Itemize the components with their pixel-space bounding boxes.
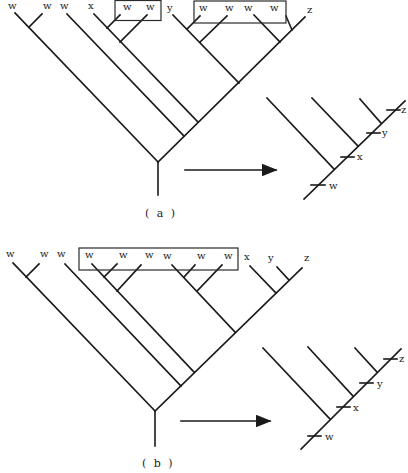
leaf-label: w — [119, 249, 128, 260]
tree-b — [13, 263, 302, 446]
tree-a-labels: w w w x w w y w w w w z — [8, 0, 312, 15]
leaf-label: w — [43, 0, 52, 11]
tick-label: z — [399, 353, 404, 364]
tick-label: y — [376, 378, 383, 389]
leaf-label: y — [267, 252, 274, 263]
leaf-label: z — [307, 4, 312, 15]
tick-label: z — [401, 104, 406, 115]
tick-label: x — [353, 402, 359, 413]
tick-label: w — [325, 431, 334, 442]
leaf-label: w — [145, 249, 154, 260]
leaf-label: w — [244, 2, 253, 13]
box-group-b1 — [79, 248, 238, 270]
leaf-label: w — [163, 250, 172, 261]
leaf-label: w — [40, 248, 49, 259]
tick-label: y — [381, 127, 388, 138]
leaf-label: x — [88, 0, 94, 11]
leaf-label: w — [60, 0, 69, 11]
tick-label: x — [357, 151, 363, 162]
panel-b: w w w w w w w w w x y z w x y z — [6, 248, 404, 470]
leaf-label: w — [199, 2, 208, 13]
phylogeny-figure: w w w x w w y w w w w z w x — [0, 0, 408, 473]
leaf-label: w — [146, 1, 155, 12]
leaf-label: w — [57, 248, 66, 259]
panel-a: w w w x w w y w w w w z w x — [8, 0, 406, 220]
leaf-label: w — [123, 1, 132, 12]
panel-caption-a: ( a ) — [145, 207, 177, 220]
leaf-label: w — [270, 2, 279, 13]
reduced-tree-b: w x y z — [263, 347, 404, 449]
panel-caption-b: ( b ) — [142, 457, 175, 470]
leaf-label: w — [225, 2, 234, 13]
leaf-label: w — [6, 248, 15, 259]
leaf-label: z — [304, 252, 309, 263]
leaf-label: w — [8, 0, 17, 11]
tick-label: w — [329, 180, 338, 191]
reduced-tree-a: w x y z — [267, 98, 406, 199]
tree-b-labels: w w w w w w w w w x y z — [6, 248, 309, 263]
leaf-label: w — [197, 250, 206, 261]
leaf-label: w — [224, 250, 233, 261]
leaf-label: y — [166, 2, 173, 13]
tree-a — [15, 13, 305, 195]
leaf-label: x — [244, 251, 250, 262]
leaf-label: w — [85, 249, 94, 260]
